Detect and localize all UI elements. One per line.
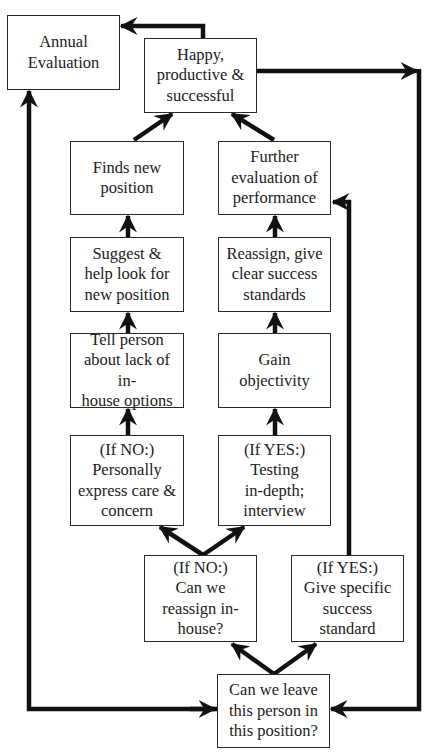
node-if-yes-testing: (If YES:) Testing in-depth; interview <box>218 435 331 526</box>
node-can-we-leave: Can we leave this person in this positio… <box>217 674 330 748</box>
flowchart: Annual Evaluation Happy, productive & su… <box>0 0 430 753</box>
node-if-no-express-care: (If NO:) Personally express care & conce… <box>70 435 184 526</box>
node-tell-person: Tell person about lack of in- house opti… <box>70 333 184 408</box>
node-if-no-reassign-in-house: (If NO:) Can we reassign in- house? <box>144 555 257 642</box>
node-reassign-clear-standards: Reassign, give clear success standards <box>218 237 331 312</box>
node-happy-productive-successful: Happy, productive & successful <box>144 38 257 113</box>
node-gain-objectivity: Gain objectivity <box>218 333 331 408</box>
node-if-yes-give-standard: (If YES:) Give specific success standard <box>291 555 404 642</box>
node-further-evaluation: Further evaluation of performance <box>218 141 331 215</box>
node-annual-evaluation: Annual Evaluation <box>7 15 120 90</box>
node-finds-new-position: Finds new position <box>70 141 184 215</box>
node-suggest-help-look: Suggest & help look for new position <box>70 237 184 312</box>
